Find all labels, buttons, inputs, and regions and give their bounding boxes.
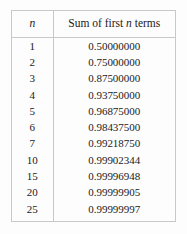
cell-n: 1 (12, 38, 53, 55)
table-row: 15 0.99996948 (12, 168, 175, 184)
table-row: 2 0.75000000 (12, 54, 175, 70)
table-body: 1 0.50000000 2 0.75000000 3 0.87500000 4… (12, 38, 175, 222)
cell-n: 4 (12, 87, 53, 103)
table-row: 5 0.96875000 (12, 103, 175, 119)
table-header: n Sum of first n terms (12, 11, 175, 38)
data-table: n Sum of first n terms 1 0.50000000 2 0.… (12, 11, 175, 221)
cell-n: 25 (12, 201, 53, 217)
cell-sum: 0.99996948 (53, 168, 175, 184)
column-header-n: n (12, 11, 53, 38)
table-row: 20 0.99999905 (12, 185, 175, 201)
cell-sum: 0.96875000 (53, 103, 175, 119)
cell-sum: 0.50000000 (53, 38, 175, 55)
cell-sum: 0.93750000 (53, 87, 175, 103)
cell-n: 7 (12, 136, 53, 152)
spacer-cell-sum (53, 217, 175, 221)
column-header-n-label: n (29, 17, 35, 29)
cell-sum: 0.99999905 (53, 185, 175, 201)
cell-n: 3 (12, 71, 53, 87)
table-spacer-row (12, 217, 175, 221)
table-row: 4 0.93750000 (12, 87, 175, 103)
cell-n: 6 (12, 119, 53, 135)
column-header-sum-suffix: terms (135, 17, 161, 29)
cell-sum: 0.98437500 (53, 119, 175, 135)
table-row: 1 0.50000000 (12, 38, 175, 55)
column-header-sum-variable: n (126, 17, 132, 29)
cell-n: 5 (12, 103, 53, 119)
column-header-sum-prefix: Sum of first (68, 17, 123, 29)
table-row: 7 0.99218750 (12, 136, 175, 152)
cell-sum: 0.87500000 (53, 71, 175, 87)
series-partial-sums-table: n Sum of first n terms 1 0.50000000 2 0.… (11, 10, 176, 222)
page-root: n Sum of first n terms 1 0.50000000 2 0.… (0, 0, 187, 234)
cell-sum: 0.99218750 (53, 136, 175, 152)
cell-n: 10 (12, 152, 53, 168)
column-header-sum: Sum of first n terms (53, 11, 175, 38)
spacer-cell-n (12, 217, 53, 221)
cell-n: 20 (12, 185, 53, 201)
table-row: 10 0.99902344 (12, 152, 175, 168)
table-row: 25 0.99999997 (12, 201, 175, 217)
cell-sum: 0.75000000 (53, 54, 175, 70)
cell-n: 15 (12, 168, 53, 184)
table-row: 3 0.87500000 (12, 71, 175, 87)
header-row: n Sum of first n terms (12, 11, 175, 38)
cell-sum: 0.99999997 (53, 201, 175, 217)
cell-n: 2 (12, 54, 53, 70)
cell-sum: 0.99902344 (53, 152, 175, 168)
table-row: 6 0.98437500 (12, 119, 175, 135)
